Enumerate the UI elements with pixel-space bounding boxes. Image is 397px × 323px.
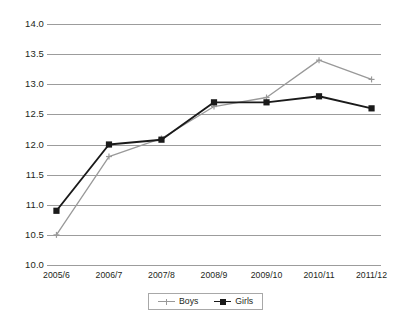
line-chart: 10.010.511.011.512.012.513.013.514.0 200…	[0, 0, 397, 323]
legend-marker-girls-icon	[214, 297, 231, 306]
x-axis-tick-label: 2005/6	[26, 270, 86, 280]
x-axis-tick-label: 2007/8	[131, 270, 191, 280]
x-axis-tick-label: 2008/9	[184, 270, 244, 280]
x-axis-tick-label: 2006/7	[79, 270, 139, 280]
series-line-boys	[56, 60, 371, 235]
legend-item-girls: Girls	[214, 297, 253, 306]
legend-item-boys: Boys	[158, 297, 198, 306]
data-point-marker	[53, 208, 59, 214]
series-line-girls	[56, 96, 371, 210]
legend-marker-boys-icon	[158, 297, 175, 306]
legend-label-boys: Boys	[179, 297, 198, 306]
data-point-marker	[316, 93, 322, 99]
chart-legend: Boys Girls	[148, 293, 263, 310]
data-point-marker	[368, 105, 374, 111]
data-point-marker	[211, 99, 217, 105]
x-axis-tick-label: 2011/12	[342, 270, 397, 280]
data-point-marker	[369, 76, 375, 82]
x-axis-tick-label: 2010/11	[289, 270, 349, 280]
legend-label-girls: Girls	[235, 297, 253, 306]
data-point-marker	[106, 141, 112, 147]
x-axis-tick-label: 2009/10	[237, 270, 297, 280]
data-point-marker	[158, 137, 164, 143]
data-point-marker	[263, 99, 269, 105]
